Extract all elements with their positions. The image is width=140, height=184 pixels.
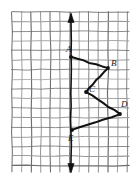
grid-line-vertical	[69, 12, 70, 172]
vertex-dot-c	[84, 90, 88, 94]
grid-line-vertical	[11, 12, 12, 172]
grid-line-vertical	[60, 12, 61, 172]
segment-c-d	[86, 92, 120, 114]
grid-line-vertical	[31, 12, 32, 172]
grid-line-vertical	[117, 12, 118, 172]
axis-arrow-down-icon	[68, 164, 74, 174]
figure-root: ABCDE	[0, 0, 140, 184]
grid-line-horizontal	[12, 12, 129, 13]
vertical-axis	[68, 13, 74, 173]
vertex-dot-d	[118, 112, 122, 116]
grid-line-vertical	[98, 12, 99, 172]
vertex-dot-e	[70, 128, 74, 132]
vertex-dot-a	[69, 55, 73, 59]
grid-line-vertical	[21, 12, 22, 172]
grid-line-vertical	[107, 12, 108, 172]
vertex-label-c: C	[89, 85, 95, 94]
vertex-label-a: A	[66, 45, 72, 54]
graph-paper-figure	[0, 0, 140, 184]
vertex-label-e: E	[68, 134, 74, 143]
grid-line-vertical	[41, 12, 42, 173]
grid-line-horizontal	[12, 69, 130, 70]
vertex-label-b: B	[111, 59, 117, 68]
segment-a-b	[71, 57, 108, 68]
vertex-dot-b	[106, 66, 110, 70]
grid-line-vertical	[50, 12, 51, 172]
axis-arrow-up-icon	[68, 13, 74, 23]
axis-line	[71, 15, 72, 171]
grid-line-vertical	[79, 12, 80, 172]
grid-line-vertical	[127, 12, 128, 172]
vertex-label-d: D	[121, 100, 128, 109]
